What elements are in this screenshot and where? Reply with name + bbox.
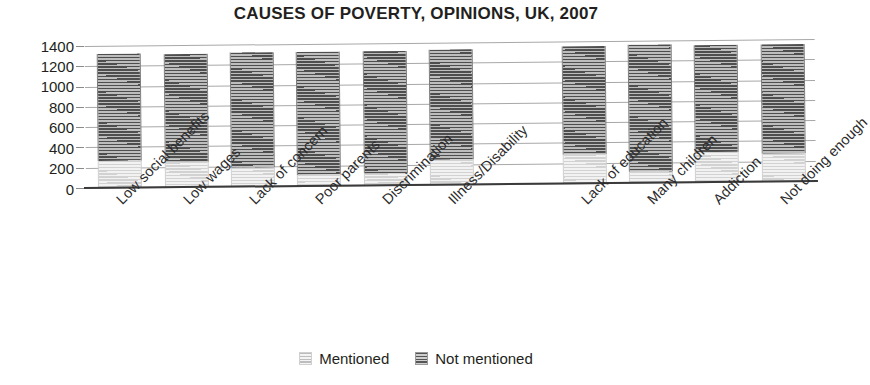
- y-axis: 0200400600800100012001400: [0, 46, 86, 188]
- bar-segment-not-mentioned[interactable]: [561, 46, 606, 154]
- y-tick-label-1000: 1000: [41, 78, 74, 95]
- y-tick-mark-800: [76, 107, 84, 108]
- y-tick-mark-1000: [76, 87, 84, 88]
- bar-column[interactable]: [561, 46, 604, 183]
- y-tick-mark-400: [76, 147, 84, 148]
- y-tick-mark-200: [76, 168, 84, 169]
- bar-column[interactable]: [362, 51, 405, 186]
- legend-label: Not mentioned: [435, 350, 533, 367]
- y-tick-label-1200: 1200: [41, 58, 74, 75]
- y-tick-mark-1200: [76, 66, 84, 67]
- y-tick-label-1400: 1400: [41, 37, 74, 54]
- bar-column[interactable]: [97, 54, 140, 188]
- chart-legend: MentionedNot mentioned: [0, 350, 832, 367]
- y-tick-label-800: 800: [49, 98, 74, 115]
- y-tick-mark-1400: [76, 46, 84, 47]
- y-tick-mark-600: [76, 127, 84, 128]
- bar-segment-not-mentioned[interactable]: [694, 45, 739, 152]
- bar-segment-not-mentioned[interactable]: [97, 54, 142, 161]
- bar-column[interactable]: [296, 51, 339, 186]
- bar-column[interactable]: [429, 49, 472, 184]
- legend-label: Mentioned: [319, 350, 389, 367]
- legend-item[interactable]: Not mentioned: [415, 350, 533, 367]
- bar-column[interactable]: [760, 44, 803, 182]
- bar-segment-not-mentioned[interactable]: [760, 44, 805, 153]
- hatched-light-swatch: [299, 352, 312, 365]
- chart-title: CAUSES OF POVERTY, OPINIONS, UK, 2007: [0, 4, 832, 24]
- bar-column[interactable]: [230, 52, 273, 186]
- x-axis-category-labels: Low social benefitsLow wagesLack of conc…: [0, 188, 832, 338]
- legend-item[interactable]: Mentioned: [299, 350, 389, 367]
- hatched-dark-swatch: [415, 352, 428, 365]
- y-tick-label-400: 400: [49, 139, 74, 156]
- y-tick-label-600: 600: [49, 119, 74, 136]
- y-tick-label-200: 200: [49, 160, 74, 177]
